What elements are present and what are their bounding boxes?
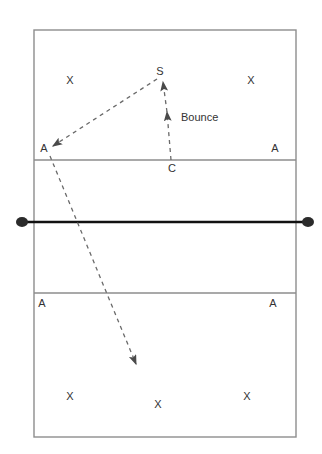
court-boundary	[34, 30, 296, 437]
label-bounce-annotation: Bounce	[181, 111, 218, 123]
marker-x-top-right: X	[247, 74, 255, 86]
marker-x-bottom-center: X	[154, 398, 162, 410]
marker-x-bottom-left: X	[66, 390, 74, 402]
marker-a-lower-right: A	[269, 297, 277, 309]
marker-a-upper-right: A	[271, 142, 279, 154]
marker-a-lower-left: A	[38, 297, 46, 309]
label-coach-c: C	[168, 162, 176, 174]
marker-x-top-left: X	[66, 74, 74, 86]
label-setter-s: S	[156, 65, 163, 77]
marker-x-bottom-right: X	[243, 390, 251, 402]
volleyball-court-diagram: X X A A A A X X X S C Bounce	[0, 0, 322, 454]
marker-a-upper-left: A	[40, 142, 48, 154]
net-post-right-icon	[302, 217, 314, 227]
court-svg-canvas: X X A A A A X X X S C Bounce	[0, 0, 322, 454]
net-post-left-icon	[16, 217, 28, 227]
